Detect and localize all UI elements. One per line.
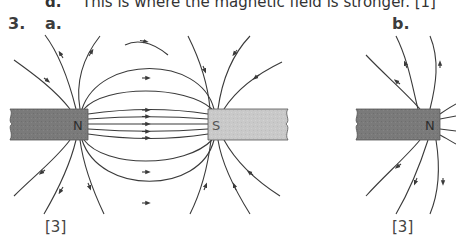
magnet-north-b: N	[356, 109, 440, 140]
north-pole-label-b: N	[425, 118, 435, 133]
marks-part-a: [3]	[45, 218, 66, 236]
north-pole-label-a: N	[73, 118, 83, 133]
south-pole-label-a: S	[212, 118, 220, 133]
magnet-north-a: N	[10, 109, 88, 140]
marks-part-b: [3]	[392, 218, 413, 236]
magnet-south-a: S	[208, 109, 288, 140]
magnetic-field-diagrams: N S N	[0, 0, 456, 242]
